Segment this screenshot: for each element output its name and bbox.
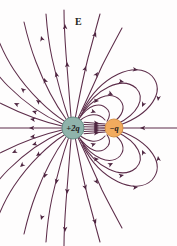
positive-charge-circle[interactable] xyxy=(62,117,84,139)
field-lines-group xyxy=(0,10,177,246)
field-line xyxy=(80,115,105,121)
charge-bodies-group xyxy=(62,117,123,139)
field-line xyxy=(80,136,105,142)
field-label-E: E xyxy=(75,16,82,27)
electric-field-diagram: E +2q −q xyxy=(0,0,177,246)
field-line xyxy=(24,22,66,119)
field-line xyxy=(24,137,66,234)
field-line-canvas xyxy=(0,0,177,246)
negative-charge-circle[interactable] xyxy=(105,119,123,137)
